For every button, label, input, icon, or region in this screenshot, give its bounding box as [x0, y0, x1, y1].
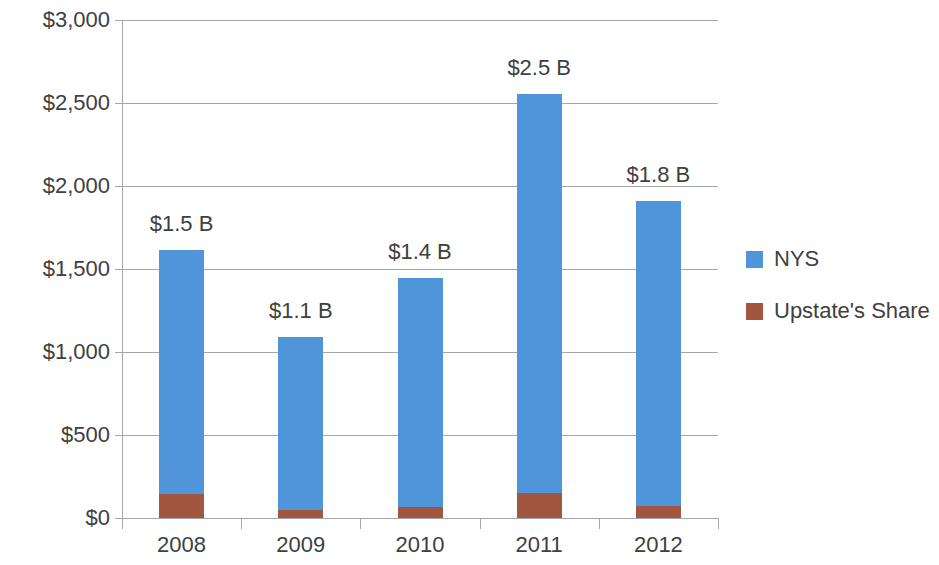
y-tick-label: $0: [5, 507, 110, 529]
bar-segment-nys-2008[interactable]: [159, 250, 204, 494]
bar-segment-upstates-share-2011[interactable]: [517, 493, 562, 518]
bar-segment-upstates-share-2008[interactable]: [159, 494, 204, 518]
x-tick-label-2011: 2011: [481, 532, 598, 558]
bar-segment-nys-2012[interactable]: [636, 201, 681, 506]
x-tick-label-2009: 2009: [242, 532, 359, 558]
data-label-2008: $1.5 B: [117, 212, 247, 236]
legend-label-nys: NYS: [774, 248, 819, 270]
bar-group-2011[interactable]: [517, 20, 562, 518]
x-axis-line: [122, 518, 719, 519]
y-axis-line: [122, 20, 123, 519]
x-tick-mark: [122, 519, 123, 529]
bar-segment-nys-2011[interactable]: [517, 94, 562, 493]
bar-group-2012[interactable]: [636, 20, 681, 518]
x-tick-label-2012: 2012: [600, 532, 717, 558]
y-tick-label: $3,000: [5, 9, 110, 31]
bar-segment-upstates-share-2009[interactable]: [278, 510, 323, 518]
legend-item-nys[interactable]: NYS: [746, 248, 936, 270]
data-label-2009: $1.1 B: [236, 299, 366, 323]
legend-item-upstates-share[interactable]: Upstate's Share: [746, 300, 936, 322]
bar-group-2008[interactable]: [159, 20, 204, 518]
x-tick-mark: [718, 519, 719, 529]
y-tick-mark: [115, 518, 122, 519]
y-tick-mark: [115, 103, 122, 104]
bar-segment-nys-2010[interactable]: [398, 278, 443, 507]
data-label-2010: $1.4 B: [355, 240, 485, 264]
bar-group-2009[interactable]: [278, 20, 323, 518]
data-label-2012: $1.8 B: [593, 163, 723, 187]
bar-segment-nys-2009[interactable]: [278, 337, 323, 510]
legend-swatch-nys: [746, 251, 763, 268]
y-tick-label: $2,000: [5, 175, 110, 197]
x-tick-mark: [599, 519, 600, 529]
y-tick-mark: [115, 186, 122, 187]
plot-area: [122, 20, 718, 518]
x-tick-label-2008: 2008: [123, 532, 240, 558]
x-tick-label-2010: 2010: [362, 532, 479, 558]
bar-segment-upstates-share-2010[interactable]: [398, 507, 443, 518]
chart-legend: NYS Upstate's Share: [746, 248, 936, 352]
y-tick-mark: [115, 269, 122, 270]
y-tick-label: $1,500: [5, 258, 110, 280]
y-tick-mark: [115, 435, 122, 436]
legend-label-upstates-share: Upstate's Share: [774, 300, 930, 322]
data-label-2011: $2.5 B: [474, 56, 604, 80]
x-tick-mark: [241, 519, 242, 529]
y-tick-label: $500: [5, 424, 110, 446]
legend-swatch-upstates-share: [746, 303, 763, 320]
y-tick-mark: [115, 20, 122, 21]
chart-container: $0$500$1,000$1,500$2,000$2,500$3,000 200…: [0, 0, 939, 565]
bar-group-2010[interactable]: [398, 20, 443, 518]
x-tick-mark: [360, 519, 361, 529]
y-tick-mark: [115, 352, 122, 353]
x-tick-mark: [480, 519, 481, 529]
bar-segment-upstates-share-2012[interactable]: [636, 506, 681, 518]
y-tick-label: $1,000: [5, 341, 110, 363]
y-tick-label: $2,500: [5, 92, 110, 114]
